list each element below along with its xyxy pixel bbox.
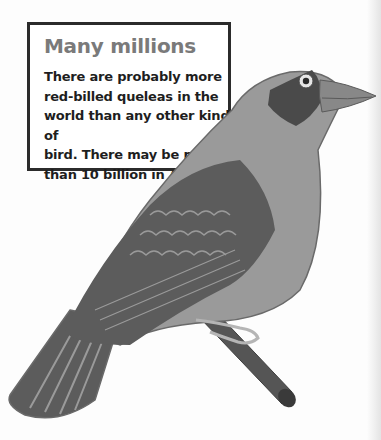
branch-icon — [200, 314, 300, 411]
fact-line: There are probably more — [44, 69, 222, 84]
eye-icon — [299, 74, 313, 88]
fact-line: world than any other kind of — [44, 108, 230, 143]
page-edge-shadow — [367, 0, 381, 440]
page: Many millions There are probably more re… — [0, 0, 381, 440]
fact-box-title: Many millions — [44, 34, 196, 58]
fact-line: red-billed queleas in the — [44, 89, 218, 104]
